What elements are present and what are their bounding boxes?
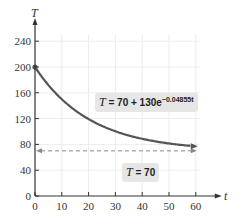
asymptote-label: T = 70 xyxy=(122,163,159,182)
axes: 010203040506004080120160200240 xyxy=(15,18,222,212)
svg-text:0: 0 xyxy=(26,190,32,202)
svg-text:80: 80 xyxy=(20,138,32,150)
x-axis-label: t xyxy=(224,189,228,203)
svg-text:40: 40 xyxy=(137,200,149,212)
svg-text:20: 20 xyxy=(83,200,95,212)
chart: 010203040506004080120160200240 T t xyxy=(0,0,238,224)
curve-equation-label: T = 70 + 130e−0.04855t xyxy=(95,93,198,112)
svg-text:240: 240 xyxy=(15,35,32,47)
svg-text:0: 0 xyxy=(32,200,38,212)
svg-text:50: 50 xyxy=(164,200,176,212)
svg-text:60: 60 xyxy=(190,200,202,212)
svg-text:200: 200 xyxy=(15,61,32,73)
svg-text:30: 30 xyxy=(110,200,122,212)
grid xyxy=(35,35,200,196)
svg-text:120: 120 xyxy=(15,113,32,125)
svg-text:40: 40 xyxy=(20,164,32,176)
svg-text:160: 160 xyxy=(15,87,32,99)
svg-text:10: 10 xyxy=(56,200,68,212)
y-axis-label: T xyxy=(31,6,39,20)
